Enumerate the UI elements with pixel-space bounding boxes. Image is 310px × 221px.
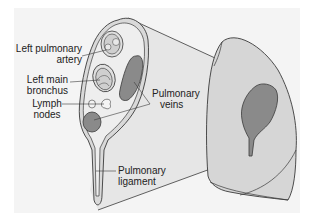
label-line: bronchus xyxy=(10,85,68,96)
label-line: Left main xyxy=(10,74,68,85)
label-line: Left pulmonary xyxy=(14,43,82,54)
label-line: Pulmonary xyxy=(118,165,166,176)
label-left-main-bronchus: Left main bronchus xyxy=(10,74,68,96)
label-line: Pulmonary xyxy=(152,88,200,99)
label-line: nodes xyxy=(30,109,64,120)
label-pulmonary-veins: Pulmonary veins xyxy=(152,88,200,110)
label-left-pulmonary-artery: Left pulmonary artery xyxy=(14,43,82,65)
label-lymph-nodes: Lymph nodes xyxy=(30,98,64,120)
label-line: veins xyxy=(152,99,200,110)
label-pulmonary-ligament: Pulmonary ligament xyxy=(118,165,166,187)
label-line: artery xyxy=(14,54,82,65)
diagram-canvas: Left pulmonary artery Left main bronchus… xyxy=(0,0,310,221)
label-line: ligament xyxy=(118,176,166,187)
pulmonary-vein-lower xyxy=(83,112,101,132)
label-line: Lymph xyxy=(30,98,64,109)
